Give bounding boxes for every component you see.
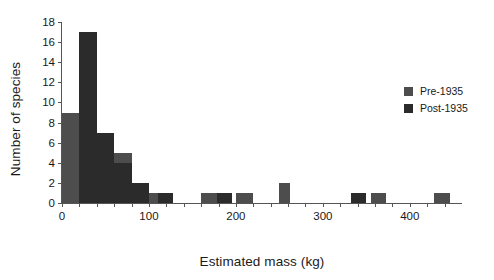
y-tick-label: 0 — [49, 197, 55, 209]
x-tick-label: 400 — [400, 210, 419, 222]
y-tick-mark — [58, 22, 62, 23]
x-axis-line — [62, 203, 462, 204]
y-tick-label: 18 — [42, 16, 55, 28]
x-tick-mark — [323, 203, 324, 207]
x-tick-mark-minor — [132, 203, 133, 207]
x-tick-label: 0 — [59, 210, 65, 222]
y-tick-mark — [58, 102, 62, 103]
histogram-bar — [236, 193, 253, 203]
y-tick-label: 10 — [42, 96, 55, 108]
x-tick-mark-minor — [97, 203, 98, 207]
plot-area: 0246810121416180100200300400 — [62, 22, 462, 203]
y-tick-label: 8 — [49, 117, 55, 129]
y-tick-label: 16 — [42, 36, 55, 48]
x-tick-mark — [236, 203, 237, 207]
x-tick-mark-minor — [288, 203, 289, 207]
y-tick-mark — [58, 42, 62, 43]
y-tick-label: 6 — [49, 137, 55, 149]
x-tick-mark — [62, 203, 63, 207]
x-tick-mark-minor — [166, 203, 167, 207]
histogram-bar — [217, 193, 233, 203]
y-axis-title: Number of species — [8, 4, 30, 234]
histogram-bar — [62, 113, 79, 204]
histogram-bar — [351, 193, 367, 203]
histogram-bar — [434, 193, 450, 203]
legend-swatch-icon — [404, 87, 413, 96]
x-tick-mark-minor — [358, 203, 359, 207]
y-tick-label: 4 — [49, 157, 55, 169]
x-tick-label: 100 — [139, 210, 158, 222]
x-tick-mark-minor — [253, 203, 254, 207]
y-tick-mark — [58, 82, 62, 83]
x-tick-mark-minor — [375, 203, 376, 207]
legend-item: Post-1935 — [404, 100, 468, 117]
x-tick-mark-minor — [305, 203, 306, 207]
x-tick-mark-minor — [271, 203, 272, 207]
histogram-bar — [371, 193, 387, 203]
x-tick-mark — [149, 203, 150, 207]
x-tick-mark-minor — [340, 203, 341, 207]
x-tick-label: 200 — [226, 210, 245, 222]
x-tick-mark-minor — [79, 203, 80, 207]
x-tick-mark-minor — [201, 203, 202, 207]
histogram-bar — [158, 193, 174, 203]
histogram-bar — [132, 183, 149, 203]
legend-label: Post-1935 — [420, 103, 468, 114]
histogram-bar — [79, 32, 96, 203]
histogram-figure: Number of species 0246810121416180100200… — [0, 0, 494, 280]
legend-swatch-icon — [404, 104, 413, 113]
histogram-bar — [114, 163, 131, 203]
x-tick-label: 300 — [313, 210, 332, 222]
y-tick-label: 12 — [42, 76, 55, 88]
x-tick-mark — [410, 203, 411, 207]
x-tick-mark-minor — [427, 203, 428, 207]
x-axis-title: Estimated mass (kg) — [62, 254, 462, 269]
legend-label: Pre-1935 — [420, 86, 463, 97]
histogram-bar — [279, 183, 289, 203]
x-tick-mark-minor — [219, 203, 220, 207]
y-tick-label: 2 — [49, 177, 55, 189]
x-tick-mark-minor — [184, 203, 185, 207]
legend-item: Pre-1935 — [404, 83, 468, 100]
x-tick-mark-minor — [445, 203, 446, 207]
x-tick-mark-minor — [392, 203, 393, 207]
x-tick-mark-minor — [114, 203, 115, 207]
y-tick-mark — [58, 62, 62, 63]
histogram-bar — [97, 133, 114, 203]
y-tick-label: 14 — [42, 56, 55, 68]
legend: Pre-1935Post-1935 — [404, 83, 468, 117]
